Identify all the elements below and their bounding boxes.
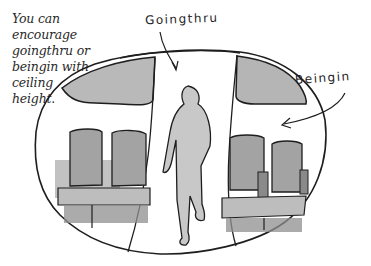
cabin-illustration (0, 0, 371, 266)
arrow-goingthru-icon (160, 32, 176, 68)
right-ceiling-bin (236, 56, 306, 104)
left-ceiling-bin (62, 57, 155, 105)
right-seat-pair (222, 135, 308, 232)
left-seat-pair (55, 129, 150, 228)
walking-person (163, 86, 211, 245)
ceiling-line (120, 51, 240, 58)
